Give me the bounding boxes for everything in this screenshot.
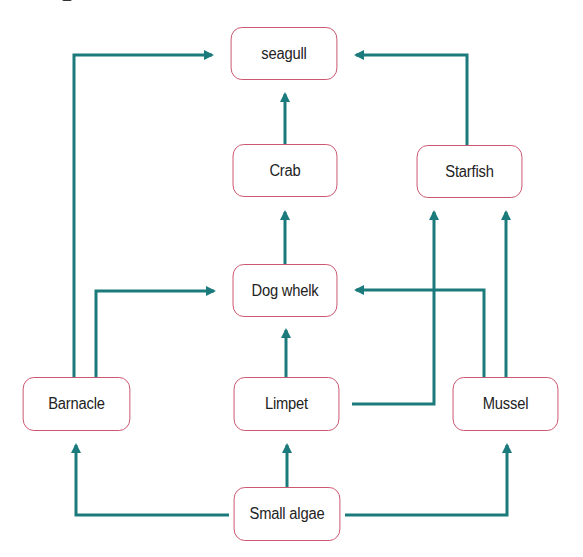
- node-label: Barnacle: [48, 395, 105, 413]
- node-starfish: Starfish: [417, 145, 523, 198]
- node-label: seagull: [261, 45, 306, 63]
- node-dog-whelk: Dog whelk: [233, 264, 338, 317]
- arrow-starfish-to-seagull: [356, 55, 467, 145]
- arrow-algae-to-barnacle: [76, 445, 229, 515]
- node-label: Crab: [269, 162, 300, 180]
- node-barnacle: Barnacle: [23, 377, 131, 431]
- node-seagull: seagull: [231, 27, 338, 80]
- node-label: Small algae: [250, 505, 325, 523]
- arrow-barnacle-to-dogwhelk: [96, 291, 214, 377]
- node-mussel: Mussel: [453, 377, 559, 431]
- node-small-algae: Small algae: [234, 487, 341, 541]
- arrow-limpet-to-starfish: [352, 212, 434, 404]
- node-limpet: Limpet: [234, 377, 340, 431]
- arrow-mussel-to-dogwhelk: [356, 290, 484, 377]
- arrow-algae-to-mussel: [345, 445, 507, 515]
- node-label: Mussel: [483, 395, 529, 413]
- node-crab: Crab: [233, 144, 338, 197]
- node-label: Starfish: [445, 163, 493, 181]
- node-label: Limpet: [265, 395, 308, 413]
- node-label: Dog whelk: [251, 282, 318, 300]
